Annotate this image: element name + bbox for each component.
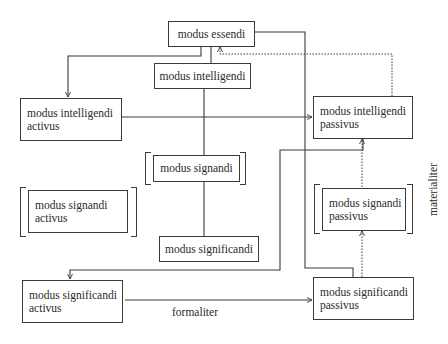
- node-label-line1: modus signandi: [35, 199, 121, 212]
- node-label-line1: modus significandi: [29, 289, 116, 302]
- node-modus-essendi: modus essendi: [168, 21, 255, 47]
- node-label-line1: modus intelligendi: [27, 107, 115, 120]
- node-modus-signandi-passivus: modus signandi passivus: [322, 188, 406, 231]
- node-label: modus intelligendi: [160, 70, 246, 83]
- node-label: modus signandi: [160, 162, 233, 175]
- node-label-line2: passivus: [329, 210, 399, 223]
- node-label-line1: modus intelligendi: [320, 105, 406, 118]
- label-formaliter: formaliter: [172, 306, 218, 318]
- edge-essendi-to-significandi-passivus: [255, 32, 353, 277]
- node-label-line2: passivus: [320, 118, 406, 131]
- node-modus-signandi-activus: modus signandi activus: [28, 190, 128, 233]
- node-label-line1: modus signandi: [329, 197, 399, 210]
- bracket-left-signandi-activus: [20, 187, 26, 237]
- node-modus-intelligendi: modus intelligendi: [154, 63, 251, 89]
- bracket-right-signandi-activus: [131, 187, 137, 237]
- node-label-line1: modus significandi: [320, 286, 407, 299]
- node-label-line2: activus: [29, 302, 116, 315]
- label-materialiter: materialiter: [427, 163, 439, 216]
- node-label-line2: activus: [27, 120, 115, 133]
- node-label-line2: activus: [35, 212, 121, 225]
- bracket-right-signandi-passivus: [407, 184, 413, 234]
- node-modus-significandi-passivus: modus significandi passivus: [313, 277, 414, 320]
- bracket-left-signandi-passivus: [314, 184, 320, 234]
- node-label: modus significandi: [165, 243, 253, 256]
- node-modus-intelligendi-activus: modus intelligendi activus: [20, 98, 122, 141]
- node-modus-signandi: modus signandi: [153, 155, 240, 182]
- node-modus-intelligendi-passivus: modus intelligendi passivus: [313, 96, 413, 139]
- node-modus-significandi-activus: modus significandi activus: [22, 280, 123, 323]
- node-label-line2: passivus: [320, 299, 407, 312]
- bracket-left-signandi: [145, 152, 151, 185]
- node-modus-significandi: modus significandi: [159, 236, 259, 262]
- bracket-right-signandi: [240, 152, 246, 185]
- node-label: modus essendi: [178, 28, 245, 41]
